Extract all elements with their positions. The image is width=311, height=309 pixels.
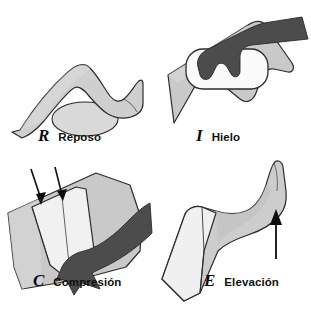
- rice-protocol-figure: R Reposo I Hielo: [0, 0, 311, 309]
- caption-label-compresion: Compresión: [53, 277, 121, 289]
- caption-reposo: R Reposo: [38, 127, 101, 144]
- caption-letter-reposo: R: [38, 127, 49, 144]
- caption-compresion: C Compresión: [33, 272, 121, 289]
- caption-letter-hielo: I: [196, 127, 203, 144]
- caption-letter-elevacion: E: [204, 272, 215, 289]
- caption-label-elevacion: Elevación: [224, 277, 279, 289]
- caption-elevacion: E Elevación: [204, 272, 279, 289]
- caption-label-hielo: Hielo: [212, 132, 241, 144]
- caption-letter-compresion: C: [33, 272, 44, 289]
- caption-hielo: I Hielo: [196, 127, 240, 144]
- caption-label-reposo: Reposo: [58, 132, 101, 144]
